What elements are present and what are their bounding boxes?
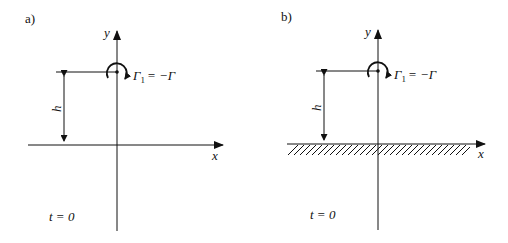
- height-label: h: [309, 105, 324, 112]
- x-axis-label: x: [477, 146, 484, 161]
- height-label: h: [49, 106, 64, 113]
- time-label: t = 0: [49, 209, 75, 224]
- panel-label: b): [281, 9, 292, 24]
- time-label: t = 0: [310, 207, 336, 222]
- y-axis-label: y: [102, 25, 110, 40]
- panel-a: a) y x h Γ1= −Γ t = 0: [25, 11, 223, 231]
- vortex-point: [376, 69, 380, 73]
- vortex-point: [115, 70, 119, 74]
- panel-b: b) y x: [281, 9, 485, 230]
- panel-label: a): [25, 11, 35, 26]
- figure: a) y x h Γ1= −Γ t = 0 b) y x: [0, 0, 508, 243]
- x-axis-label: x: [211, 148, 218, 163]
- vortex-circulation-label: Γ1= −Γ: [393, 67, 437, 84]
- vortex-circulation-label: Γ1= −Γ: [132, 68, 176, 85]
- y-axis-label: y: [363, 24, 371, 39]
- wall-hatching: [288, 145, 470, 155]
